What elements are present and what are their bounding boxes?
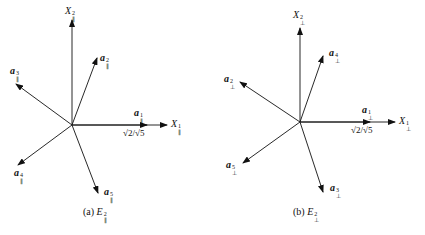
label-main: a bbox=[329, 47, 334, 58]
label-sub: ∥ bbox=[178, 129, 181, 135]
panel-a-vectors bbox=[16, 20, 167, 193]
label-sub: ⊥ bbox=[300, 20, 305, 26]
label-sub: ⊥ bbox=[335, 58, 340, 64]
label-a4-perp: a4⊥ bbox=[329, 48, 340, 64]
caption-panel-b: (b) E2⊥ bbox=[293, 207, 319, 223]
label-main: a bbox=[100, 52, 105, 63]
label-sub: ∥ bbox=[110, 197, 113, 203]
label-a3-parallel: a3∥ bbox=[10, 66, 19, 82]
caption-sub: ∥ bbox=[104, 217, 107, 223]
label-a1-parallel: a1∥ bbox=[134, 108, 143, 124]
label-sub: ⊥ bbox=[232, 170, 237, 176]
label-main: a bbox=[330, 182, 335, 193]
caption-main: E bbox=[97, 206, 103, 217]
label-a3-perp: a3⊥ bbox=[330, 183, 341, 199]
label-x2-parallel: X2∥ bbox=[65, 6, 75, 22]
label-x1-parallel: X1∥ bbox=[171, 119, 181, 135]
label-main: X bbox=[293, 9, 299, 20]
label-sub: ∥ bbox=[72, 16, 75, 22]
scale-label-parallel: √2/√5 bbox=[123, 129, 144, 138]
label-sub: ∥ bbox=[16, 76, 19, 82]
vector-a5-parallel bbox=[72, 125, 98, 193]
label-main: a bbox=[104, 186, 109, 197]
vector-a3-perp bbox=[300, 122, 323, 192]
label-x2-perp: X2⊥ bbox=[293, 10, 305, 26]
vector-a4-perp bbox=[300, 56, 323, 122]
label-main: a bbox=[226, 159, 231, 170]
caption-prefix: (b) bbox=[293, 206, 307, 217]
label-sub: ⊥ bbox=[230, 84, 235, 90]
label-a2-perp: a2⊥ bbox=[224, 74, 235, 90]
label-sub: ∥ bbox=[106, 63, 109, 69]
label-a4-parallel: a4∥ bbox=[14, 168, 23, 184]
caption-main: E bbox=[307, 206, 313, 217]
label-x1-perp: X1⊥ bbox=[399, 116, 411, 132]
label-a5-perp: a5⊥ bbox=[226, 160, 237, 176]
label-main: a bbox=[134, 107, 139, 118]
label-a5-parallel: a5∥ bbox=[104, 187, 113, 203]
vector-a5-perp bbox=[243, 122, 300, 163]
label-sub: ⊥ bbox=[368, 115, 373, 121]
label-sub: ⊥ bbox=[336, 193, 341, 199]
label-main: X bbox=[399, 115, 405, 126]
label-main: a bbox=[14, 167, 19, 178]
label-sub: ∥ bbox=[140, 118, 143, 124]
label-main: X bbox=[65, 5, 71, 16]
label-sub: ∥ bbox=[20, 178, 23, 184]
caption-prefix: (a) bbox=[83, 206, 97, 217]
vector-a3-parallel bbox=[16, 84, 72, 125]
label-main: a bbox=[362, 104, 367, 115]
caption-sub: ⊥ bbox=[314, 217, 319, 223]
vector-a4-parallel bbox=[18, 125, 72, 165]
label-main: a bbox=[10, 65, 15, 76]
label-main: X bbox=[171, 118, 177, 129]
label-a2-parallel: a2∥ bbox=[100, 53, 109, 69]
scale-label-perp: √2/√5 bbox=[351, 126, 372, 135]
label-sub: ⊥ bbox=[406, 126, 411, 132]
vector-a2-perp bbox=[240, 82, 300, 122]
caption-panel-a: (a) E2∥ bbox=[83, 207, 107, 223]
label-main: a bbox=[224, 73, 229, 84]
label-a1-perp: a1⊥ bbox=[362, 105, 373, 121]
vector-a2-parallel bbox=[72, 58, 97, 125]
